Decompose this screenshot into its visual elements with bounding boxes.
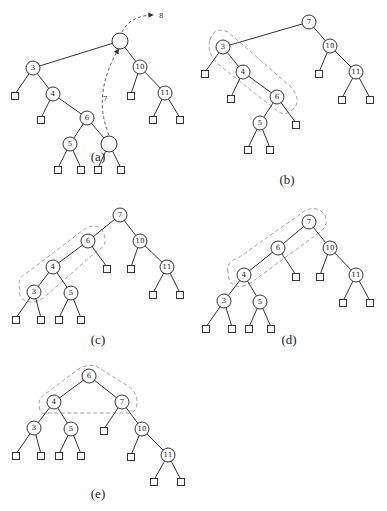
tree-node: 11 [158, 86, 172, 100]
external-leaf-square [13, 453, 20, 460]
external-leaf-square [55, 167, 62, 174]
external-leaf-square [118, 167, 125, 174]
external-leaf-square [101, 428, 108, 435]
node-key: 11 [352, 271, 361, 279]
arrow-label: 8 [159, 12, 163, 20]
tree-node: 5 [63, 137, 77, 151]
tree-node: 6 [270, 90, 284, 104]
node-key: 3 [222, 297, 226, 305]
tree-node: 5 [64, 286, 78, 300]
tree-node: 3 [217, 294, 231, 308]
tree-node: 4 [47, 395, 61, 409]
tree-node: 3 [26, 61, 40, 75]
tree-node: 5 [64, 422, 78, 436]
external-leaf-square [38, 317, 45, 324]
tree-node: 10 [135, 422, 149, 436]
node-key: 6 [87, 372, 92, 380]
node-key: 10 [138, 425, 147, 433]
node-key: 7 [307, 218, 311, 226]
panel-caption: (a) [91, 149, 105, 164]
node-key: 4 [51, 90, 56, 98]
tree-node: 7 [113, 208, 127, 222]
node-key: 10 [326, 244, 335, 252]
external-leaf-square [340, 300, 347, 307]
panel-b: 731041165(b) [202, 15, 374, 187]
external-leaf-square [177, 292, 184, 299]
node-key: 5 [258, 119, 262, 127]
external-leaf-square [56, 453, 63, 460]
node-key: 5 [258, 298, 262, 306]
node-key: 10 [136, 63, 145, 71]
tree-node: 6 [82, 369, 96, 383]
node-key: 11 [352, 68, 361, 76]
external-leaf-square [229, 326, 236, 333]
node-key: 7 [118, 211, 122, 219]
insert-arrow [122, 15, 152, 32]
node-key: 10 [326, 42, 335, 50]
panel-caption: (d) [281, 332, 296, 347]
panel-caption: (e) [91, 486, 105, 501]
external-leaf-square [150, 292, 157, 299]
node-key: 4 [51, 263, 56, 271]
tree-node: 4 [236, 65, 250, 79]
external-leaf-square [228, 96, 235, 103]
tree-node: 7 [115, 395, 129, 409]
node-key: 3 [32, 288, 36, 296]
external-leaf-square [245, 147, 252, 154]
external-leaf-square [104, 266, 111, 273]
tree-node: 11 [161, 448, 175, 462]
node-key: 6 [275, 93, 280, 101]
tree-node: 3 [27, 421, 41, 435]
tree-node: 4 [237, 268, 251, 282]
external-leaf-square [293, 274, 300, 281]
external-leaf-square [13, 317, 20, 324]
tree-node: 6 [271, 241, 285, 255]
node-key: 11 [161, 89, 170, 97]
tree-node: 7 [302, 15, 316, 29]
node-key: 7 [307, 18, 311, 26]
panel-a: 7831041165(a) [12, 12, 184, 174]
tree-node: 5 [253, 116, 267, 130]
panel-d: 761041135(d) [203, 209, 374, 347]
external-leaf-square [78, 167, 85, 174]
node-key: 5 [68, 140, 72, 148]
node-key: 7 [120, 398, 124, 406]
external-leaf-square [202, 71, 209, 78]
tree-node: 6 [81, 234, 95, 248]
tree-edge [223, 22, 309, 47]
external-leaf-square [339, 97, 346, 104]
node-key: 4 [242, 271, 247, 279]
node-key: 5 [69, 289, 73, 297]
tree-node: 10 [323, 241, 337, 255]
tree-node: 11 [160, 260, 174, 274]
node-key: 6 [276, 244, 281, 252]
panel-caption: (b) [279, 172, 294, 187]
tree-node: 10 [133, 234, 147, 248]
external-leaf-square [95, 167, 102, 174]
node-key: 6 [86, 237, 91, 245]
node-key: 3 [221, 43, 225, 51]
external-leaf-square [151, 479, 158, 486]
node-key: 3 [31, 64, 35, 72]
external-leaf-square [78, 317, 85, 324]
node-key: 11 [163, 263, 172, 271]
node-key: 4 [241, 68, 246, 76]
external-leaf-square [38, 117, 45, 124]
external-leaf-square [78, 453, 85, 460]
external-leaf-square [178, 479, 185, 486]
arrow-label: 7 [103, 95, 107, 103]
external-leaf-square [268, 326, 275, 333]
node-key: 5 [69, 425, 73, 433]
tree-node: 11 [349, 268, 363, 282]
external-leaf-square [367, 300, 374, 307]
tree-figure: 7831041165(a)731041165(b)761041135(c)761… [0, 0, 387, 511]
tree-node: 5 [253, 295, 267, 309]
tree-node: 3 [27, 285, 41, 299]
node-key: 10 [136, 237, 145, 245]
tree-node: 10 [133, 60, 147, 74]
tree-panels: 7831041165(a)731041165(b)761041135(c)761… [12, 12, 374, 501]
tree-node: 4 [46, 260, 60, 274]
panel-e: 647351011(e) [13, 365, 185, 501]
tree-node: 11 [349, 65, 363, 79]
external-leaf-square [316, 71, 323, 78]
